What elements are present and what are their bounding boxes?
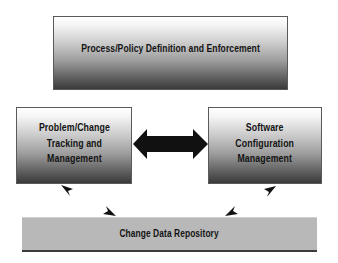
arrowhead-up-left-icon — [61, 185, 73, 196]
double-arrow-icon — [133, 129, 208, 159]
arrowhead-up-right-icon — [264, 186, 276, 197]
arrowhead-down-right-icon — [103, 206, 116, 216]
arrowhead-down-left-icon — [225, 206, 238, 216]
connectors-layer — [0, 0, 338, 263]
